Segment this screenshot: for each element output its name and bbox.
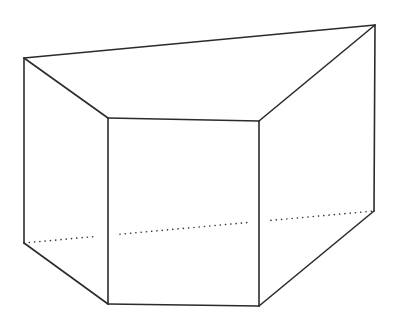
edge-top-front-right-to-top-back-right: [259, 25, 375, 121]
prism-diagram: [0, 0, 400, 315]
edge-top-back-left-to-top-back-right: [24, 25, 375, 58]
edge-bottom-back-left-to-bottom-front-left: [24, 243, 108, 304]
hidden-edge-segment: [24, 236, 96, 243]
visible-edges: [24, 25, 375, 306]
hidden-edge-segment: [120, 223, 247, 235]
hidden-edge-segment: [271, 211, 374, 220]
edge-bottom-front-left-to-bottom-front-right: [108, 304, 259, 306]
edge-top-back-right-to-bottom-back-right: [374, 25, 375, 211]
hidden-edges: [24, 211, 374, 243]
edge-top-front-left-to-top-front-right: [108, 118, 259, 121]
edge-bottom-front-right-to-bottom-back-right: [259, 211, 374, 306]
edge-top-back-left-to-top-front-left: [24, 58, 108, 118]
